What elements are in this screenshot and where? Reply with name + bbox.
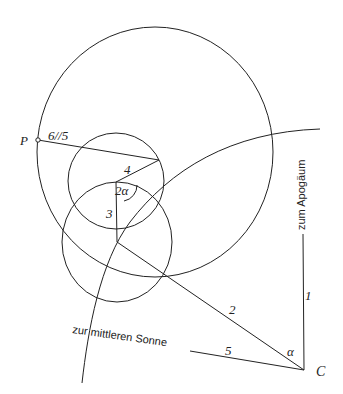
label-to-apogee: zum Apogäum: [295, 160, 307, 230]
label-p: P: [19, 133, 28, 148]
point-p-marker: [36, 138, 40, 142]
line-1: [303, 234, 304, 370]
line-2: [117, 242, 304, 370]
diagram-svg: P 6//5 4 2α 3 2 1 5 α C zum Apogäum zur …: [0, 0, 343, 394]
geometric-diagram: P 6//5 4 2α 3 2 1 5 α C zum Apogäum zur …: [0, 0, 343, 394]
label-5: 5: [225, 343, 232, 358]
line-6-5: [38, 140, 159, 160]
label-4: 4: [124, 162, 131, 177]
label-to-mean-sun: zur mittleren Sonne: [72, 323, 168, 348]
label-c: C: [316, 364, 326, 379]
label-2a: 2α: [115, 183, 130, 198]
label-3: 3: [105, 206, 113, 221]
orbit-curve: [82, 129, 320, 383]
label-6-5: 6//5: [48, 128, 69, 143]
label-2: 2: [229, 302, 236, 317]
large-circle: [37, 27, 273, 277]
line-4: [116, 160, 159, 182]
label-1: 1: [305, 288, 312, 303]
label-alpha: α: [287, 344, 295, 359]
